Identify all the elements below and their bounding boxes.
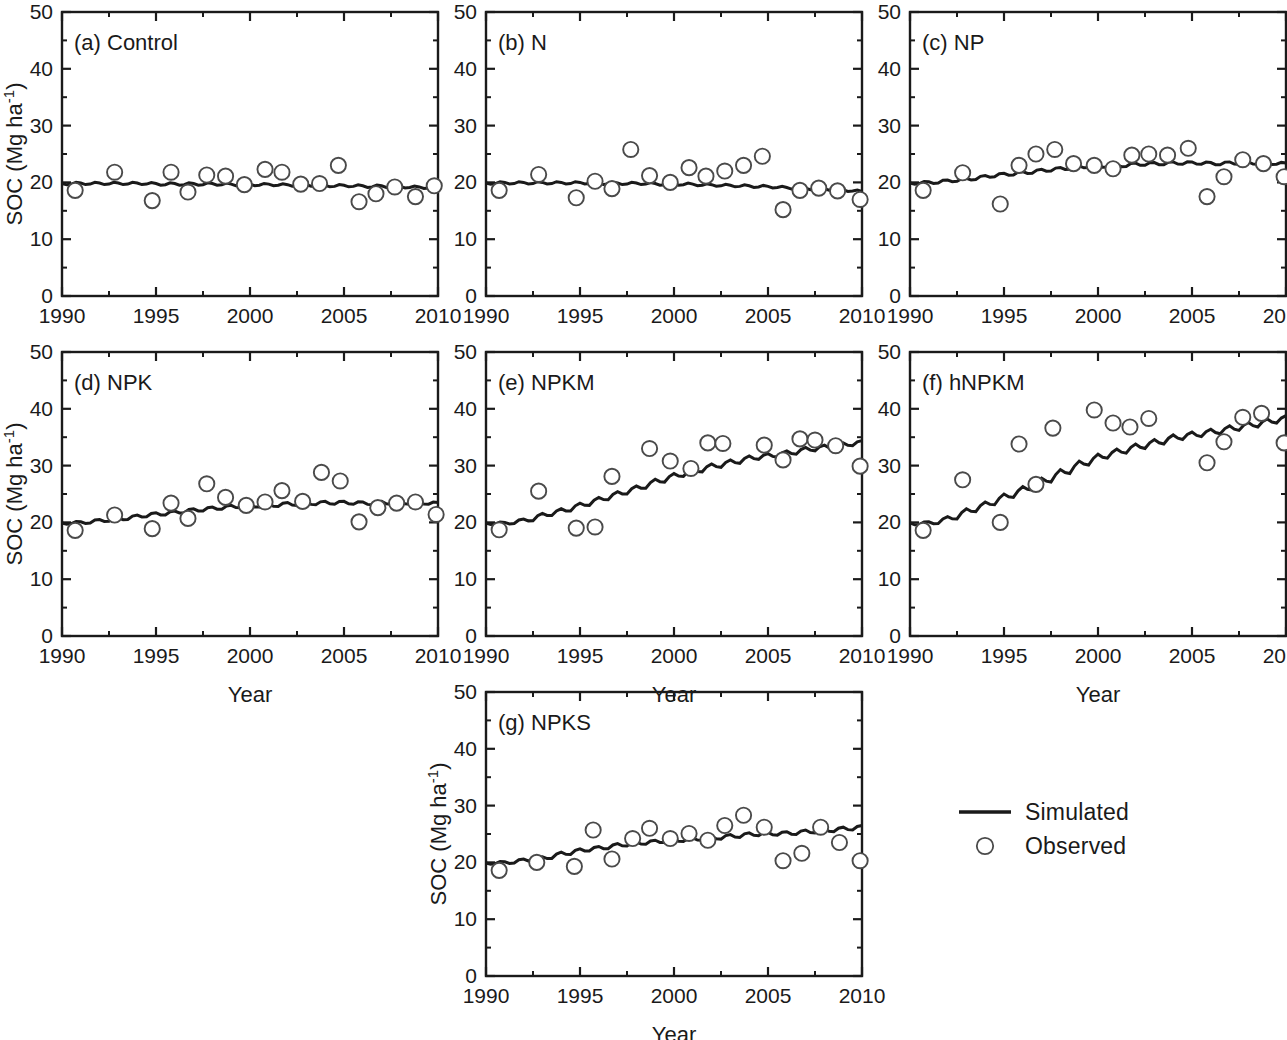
simulated-line bbox=[910, 416, 1286, 525]
observed-point bbox=[1216, 169, 1231, 184]
y-tick-label: 10 bbox=[30, 567, 53, 590]
observed-point bbox=[955, 472, 970, 487]
y-tick-label: 40 bbox=[878, 57, 901, 80]
observed-point bbox=[237, 177, 252, 192]
panel-e: 0102030405019901995200020052010(e) NPKMY… bbox=[424, 340, 862, 700]
legend-row-observed: Observed bbox=[955, 829, 1215, 863]
y-tick-label: 40 bbox=[454, 737, 477, 760]
observed-point bbox=[1216, 434, 1231, 449]
x-tick-label: 1990 bbox=[887, 304, 934, 327]
y-tick-label: 50 bbox=[878, 0, 901, 23]
y-tick-label: 30 bbox=[878, 114, 901, 137]
y-tick-label: 50 bbox=[30, 340, 53, 363]
y-tick-label: 30 bbox=[30, 114, 53, 137]
y-axis-title: SOC (Mg ha-1) bbox=[424, 763, 452, 906]
x-tick-label: 1990 bbox=[39, 304, 86, 327]
y-tick-label: 10 bbox=[454, 567, 477, 590]
x-tick-label: 1995 bbox=[557, 304, 604, 327]
y-axis-title: SOC (Mg ha-1) bbox=[0, 83, 27, 226]
observed-point bbox=[683, 461, 698, 476]
simulated-line-icon bbox=[955, 806, 1015, 818]
observed-point bbox=[331, 158, 346, 173]
observed-point bbox=[1011, 436, 1026, 451]
observed-point bbox=[389, 495, 404, 510]
observed-point bbox=[717, 818, 732, 833]
panel-label: (a) Control bbox=[74, 30, 178, 55]
y-tick-label: 50 bbox=[454, 340, 477, 363]
legend: Simulated Observed bbox=[955, 795, 1215, 863]
observed-point bbox=[736, 808, 751, 823]
x-tick-label: 1995 bbox=[133, 304, 180, 327]
panel-g: 0102030405019901995200020052010(g) NPKSS… bbox=[424, 680, 862, 1040]
observed-point bbox=[1087, 158, 1102, 173]
observed-point bbox=[681, 826, 696, 841]
x-tick-label: 2000 bbox=[651, 984, 698, 1007]
observed-point bbox=[1011, 158, 1026, 173]
x-tick-label: 1990 bbox=[887, 644, 934, 667]
x-tick-label: 2000 bbox=[651, 304, 698, 327]
observed-point bbox=[199, 167, 214, 182]
observed-point bbox=[199, 476, 214, 491]
observed-point bbox=[625, 831, 640, 846]
observed-point bbox=[1254, 406, 1269, 421]
observed-point bbox=[408, 189, 423, 204]
x-tick-label: 2000 bbox=[227, 644, 274, 667]
x-tick-label: 2000 bbox=[1075, 644, 1122, 667]
panel-c: 0102030405019901995200020052010(c) NP bbox=[848, 0, 1286, 360]
observed-point bbox=[370, 500, 385, 515]
y-tick-label: 50 bbox=[30, 0, 53, 23]
x-tick-label: 1990 bbox=[463, 644, 510, 667]
observed-point bbox=[1235, 410, 1250, 425]
svg-text:SOC (Mg ha-1): SOC (Mg ha-1) bbox=[0, 83, 27, 226]
observed-point bbox=[1105, 161, 1120, 176]
y-tick-label: 50 bbox=[454, 680, 477, 703]
observed-point bbox=[663, 831, 678, 846]
observed-point bbox=[1124, 148, 1139, 163]
x-tick-label: 2005 bbox=[745, 304, 792, 327]
x-tick-label: 1990 bbox=[463, 984, 510, 1007]
x-tick-label: 1990 bbox=[463, 304, 510, 327]
panel-f: 0102030405019901995200020052010(f) hNPKM… bbox=[848, 340, 1286, 700]
y-tick-label: 10 bbox=[454, 227, 477, 250]
observed-point bbox=[700, 833, 715, 848]
observed-point bbox=[1181, 141, 1196, 156]
observed-point bbox=[775, 452, 790, 467]
panel-label: (f) hNPKM bbox=[922, 370, 1025, 395]
simulated-line bbox=[486, 441, 862, 525]
observed-point bbox=[1235, 152, 1250, 167]
observed-point bbox=[1141, 146, 1156, 161]
y-tick-label: 40 bbox=[878, 397, 901, 420]
observed-point bbox=[163, 165, 178, 180]
y-tick-label: 20 bbox=[878, 170, 901, 193]
y-tick-label: 30 bbox=[454, 114, 477, 137]
observed-point bbox=[642, 441, 657, 456]
observed-point bbox=[993, 515, 1008, 530]
observed-point bbox=[830, 183, 845, 198]
observed-point bbox=[955, 165, 970, 180]
observed-point bbox=[792, 431, 807, 446]
svg-text:SOC (Mg ha-1): SOC (Mg ha-1) bbox=[0, 423, 27, 566]
x-tick-label: 2000 bbox=[651, 644, 698, 667]
observed-point bbox=[1028, 477, 1043, 492]
observed-point bbox=[1122, 419, 1137, 434]
x-tick-label: 2000 bbox=[227, 304, 274, 327]
observed-point bbox=[717, 163, 732, 178]
observed-point bbox=[715, 436, 730, 451]
observed-point bbox=[813, 820, 828, 835]
legend-label-simulated: Simulated bbox=[1025, 799, 1129, 826]
observed-point bbox=[853, 853, 868, 868]
observed-point bbox=[757, 820, 772, 835]
y-tick-label: 20 bbox=[30, 170, 53, 193]
observed-point bbox=[642, 821, 657, 836]
x-tick-label: 2010 bbox=[1263, 304, 1287, 327]
x-tick-label: 2010 bbox=[839, 984, 886, 1007]
y-tick-label: 10 bbox=[878, 567, 901, 590]
panel-label: (c) NP bbox=[922, 30, 984, 55]
y-tick-label: 10 bbox=[878, 227, 901, 250]
y-tick-label: 20 bbox=[454, 850, 477, 873]
observed-point bbox=[1160, 148, 1175, 163]
observed-point bbox=[587, 519, 602, 534]
observed-point bbox=[698, 169, 713, 184]
observed-point bbox=[1199, 189, 1214, 204]
observed-point bbox=[218, 169, 233, 184]
